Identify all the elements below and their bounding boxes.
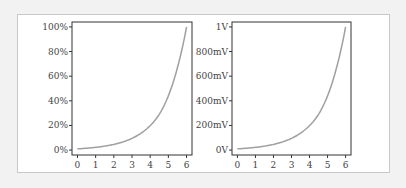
- x-tick-label: 6: [343, 160, 349, 170]
- x-tick-label: 1: [93, 160, 99, 170]
- data-line: [77, 27, 186, 149]
- y-tick-label: 100%: [42, 22, 68, 32]
- x-tick-label: 1: [253, 160, 259, 170]
- x-tick-label: 2: [271, 160, 277, 170]
- y-tick-label: 60%: [48, 71, 68, 81]
- x-tick-label: 0: [75, 160, 81, 170]
- y-tick-label: 400mV: [196, 96, 229, 106]
- x-tick-label: 5: [165, 160, 171, 170]
- x-tick-label: 5: [325, 160, 331, 170]
- y-tick-label: 800mV: [196, 47, 229, 57]
- plot-frame: [72, 22, 192, 155]
- y-tick-label: 1V: [216, 22, 229, 32]
- x-tick-label: 4: [147, 160, 153, 170]
- y-tick-label: 200mV: [196, 120, 229, 130]
- x-tick-label: 6: [184, 160, 190, 170]
- plot-frame: [232, 22, 351, 155]
- x-tick-label: 3: [289, 160, 295, 170]
- x-tick-label: 2: [111, 160, 117, 170]
- y-tick-label: 0V: [216, 145, 229, 155]
- figure-canvas: 01234560%20%40%60%80%100%01234560V200mV4…: [0, 0, 406, 188]
- y-tick-label: 600mV: [196, 71, 229, 81]
- x-tick-label: 0: [235, 160, 241, 170]
- y-tick-label: 0%: [54, 145, 69, 155]
- chart-1: 01234560%20%40%60%80%100%: [42, 22, 192, 170]
- y-tick-label: 80%: [48, 47, 68, 57]
- chart-2: 01234560V200mV400mV600mV800mV1V: [196, 22, 351, 170]
- x-tick-label: 3: [129, 160, 135, 170]
- y-tick-label: 20%: [48, 120, 68, 130]
- data-line: [237, 27, 345, 149]
- y-tick-label: 40%: [48, 96, 68, 106]
- x-tick-label: 4: [307, 160, 313, 170]
